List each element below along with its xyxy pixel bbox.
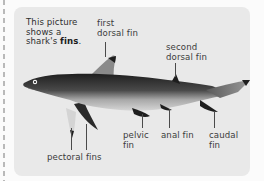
leader-line-second-dorsal (175, 63, 176, 77)
label-second-dorsal-fin: second dorsal fin (166, 43, 207, 62)
label-anal-fin: anal fin (161, 131, 194, 141)
leader-line-pectoral-2 (86, 124, 87, 150)
leader-line-anal (169, 109, 170, 128)
label-pelvic-fin: pelvic fin (123, 131, 149, 150)
label-pectoral-fins: pectoral fins (47, 153, 102, 163)
leader-line-pectoral-1 (71, 128, 72, 150)
leader-line-first-dorsal (105, 42, 106, 57)
emphasis-fins: fins (60, 36, 78, 46)
leader-line-caudal (214, 111, 215, 128)
intro-caption: This picture shows a shark's fins. (26, 18, 81, 47)
intro-line-3: shark's fins. (26, 37, 81, 47)
leader-line-pelvic (142, 114, 143, 128)
shark-body (23, 74, 222, 111)
label-caudal-fin: caudal fin (209, 131, 238, 150)
label-first-dorsal-fin: first dorsal fin (97, 19, 138, 38)
